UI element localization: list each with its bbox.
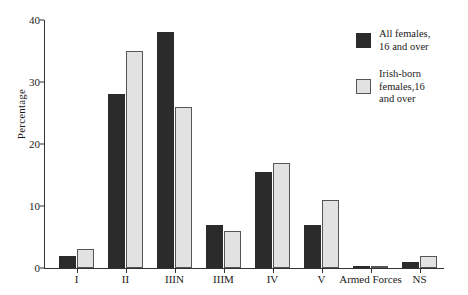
x-tick-label: IIIM (213, 273, 234, 285)
x-tick-label: NS (412, 273, 426, 285)
legend-label: Irish-born females,16 and over (379, 68, 425, 106)
y-axis-line (44, 20, 45, 269)
y-tick-mark (40, 144, 44, 145)
x-tick-label: V (318, 273, 326, 285)
y-tick-mark (40, 206, 44, 207)
bar-group (206, 20, 241, 268)
x-tick-label: IV (267, 273, 279, 285)
bar (255, 172, 272, 268)
bar (353, 266, 370, 268)
bar-group (59, 20, 94, 268)
bar (126, 51, 143, 268)
bar (108, 94, 125, 268)
bar-chart: Percentage 010203040 IIIIIINIIIMIVVArmed… (0, 0, 468, 295)
legend-label: All females, 16 and over (379, 28, 430, 53)
x-tick-label: II (122, 273, 129, 285)
bar (273, 163, 290, 268)
bar (402, 262, 419, 268)
y-axis-title: Percentage (15, 69, 27, 159)
bar-group (304, 20, 339, 268)
bar (224, 231, 241, 268)
x-axis-line (44, 268, 444, 269)
bar-group (157, 20, 192, 268)
bar (157, 32, 174, 268)
bar-group (255, 20, 290, 268)
x-tick-label: Armed Forces (339, 273, 402, 285)
bar (206, 225, 223, 268)
x-tick-label: IIIN (165, 273, 184, 285)
bar (371, 266, 388, 268)
bar (322, 200, 339, 268)
legend-swatch-icon (356, 33, 371, 48)
bar (175, 107, 192, 268)
legend-item: Irish-born females,16 and over (356, 68, 468, 106)
chart-legend: All females, 16 and overIrish-born femal… (356, 28, 468, 121)
legend-swatch-icon (356, 79, 371, 94)
legend-item: All females, 16 and over (356, 28, 468, 53)
bar (304, 225, 321, 268)
y-tick-mark (40, 82, 44, 83)
bar-group (108, 20, 143, 268)
y-tick-mark (40, 268, 44, 269)
bar (59, 256, 76, 268)
bar (77, 249, 94, 268)
bar (420, 256, 437, 268)
y-tick-mark (40, 20, 44, 21)
x-tick-label: I (75, 273, 79, 285)
